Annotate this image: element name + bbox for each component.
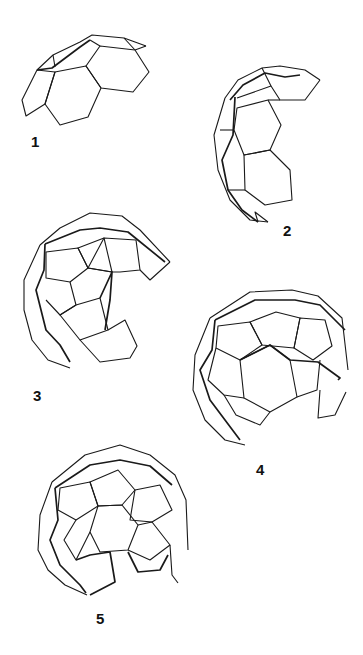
- panel-label-2: 2: [283, 222, 291, 239]
- panel-label-4: 4: [256, 461, 264, 478]
- panel-label-5: 5: [96, 610, 104, 627]
- panel-label-3: 3: [33, 387, 41, 404]
- cage-stage-1: [22, 35, 149, 125]
- cage-stage-2: [214, 66, 320, 222]
- cage-stage-4: [193, 290, 348, 445]
- cage-stage-3: [24, 213, 170, 368]
- fullerene-growth-diagram: [0, 0, 363, 655]
- panel-label-1: 1: [31, 133, 39, 150]
- cage-stage-5: [38, 445, 188, 595]
